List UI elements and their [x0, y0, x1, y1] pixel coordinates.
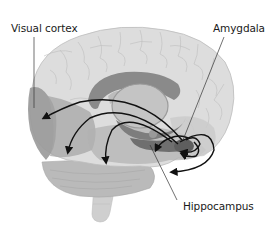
label-hippocampus: Hippocampus — [183, 200, 254, 212]
brain-diagram: Visual cortex Amygdala Hippocampus — [0, 0, 270, 239]
label-visual-cortex: Visual cortex — [11, 22, 78, 34]
label-amygdala: Amygdala — [213, 22, 265, 34]
amygdala-structure — [174, 139, 194, 153]
